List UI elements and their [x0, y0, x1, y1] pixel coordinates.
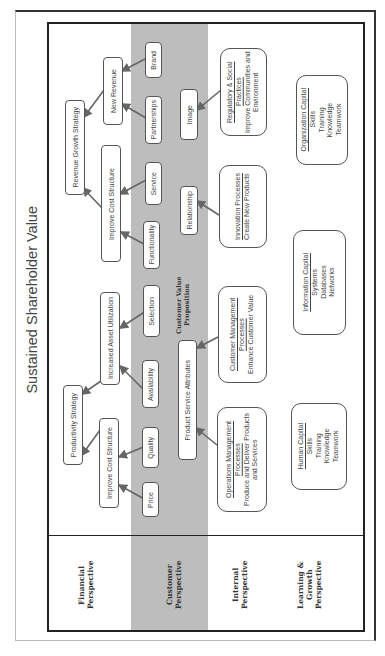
improve-cost-structure-bottom-box: Improve Cost Structure	[99, 418, 119, 508]
human-capital-item: Skills	[306, 423, 315, 469]
perspective-learning-growth: Learning & Growth Perspective	[292, 545, 332, 625]
attribute-selection-label: Selection	[148, 297, 155, 326]
perspective-learning-growth-label: Learning & Growth Perspective	[296, 545, 328, 625]
revenue-growth-strategy-label: Revenue Growth Strategy	[72, 107, 79, 188]
attribute-brand: Brand	[145, 42, 162, 78]
customer-value-proposition: Customer Value Proposition	[168, 265, 200, 345]
attribute-functionality-label: Functionality	[148, 225, 155, 264]
organization-capital-item: Skills	[309, 88, 318, 151]
attribute-quality: Quality	[142, 427, 159, 468]
customer-management-processes-text: Customer Management Processes Enhance Cu…	[229, 287, 255, 382]
improve-cost-structure-top-label: Improve Cost Structure	[108, 168, 115, 240]
customer-management-processes-box: Customer Management Processes Enhance Cu…	[218, 286, 267, 383]
perspective-customer-label: Customer Perspective	[165, 545, 187, 625]
perspective-customer: Customer Perspective	[156, 545, 196, 625]
attribute-price-label: Price	[147, 492, 154, 508]
perspective-financial: Financial Perspective	[68, 545, 108, 625]
operations-management-processes-box: Operations Management Processes Produce …	[217, 407, 267, 512]
customer-management-desc: Enhance Customer Value	[247, 295, 254, 374]
operations-title: Operations Management Processes	[225, 408, 243, 511]
productivity-strategy-label: Productivity Strategy	[70, 393, 77, 457]
attribute-availability-label: Availability	[147, 368, 154, 401]
regulatory-desc: Improve Communities and Environment	[244, 51, 260, 133]
human-capital-text: Human Capital Skills Training Knowledge …	[297, 423, 341, 469]
attribute-service: Service	[145, 162, 162, 205]
attribute-availability: Availability	[142, 360, 159, 408]
human-capital-item: Teamwork	[332, 423, 341, 469]
diagram-title: Sustained Shareholder Value	[14, 210, 50, 390]
attribute-partnerships-label: Partnerships	[150, 100, 157, 139]
human-capital-item: Training	[315, 423, 324, 469]
attribute-service-label: Service	[150, 172, 157, 195]
attribute-quality-label: Quality	[147, 437, 154, 459]
innovation-title: Innovation Processes	[234, 173, 243, 240]
group-product-service-attributes-label: Product Service Attributes	[184, 360, 191, 441]
regulatory-title: Regulatory & Social Practices	[226, 49, 244, 135]
customer-value-proposition-label: Customer Value Proposition	[176, 265, 192, 345]
organization-capital-item: Teamwork	[335, 88, 344, 151]
information-capital-text: Information Capital Systems Databases Ne…	[302, 253, 337, 312]
perspective-financial-label: Financial Perspective	[77, 545, 99, 625]
operations-desc: Produce and Deliver Products and Service…	[242, 413, 258, 506]
attribute-selection: Selection	[143, 285, 160, 337]
information-capital-item: Databases	[320, 253, 329, 312]
information-capital-title: Information Capital	[302, 253, 311, 312]
revenue-growth-strategy-box: Revenue Growth Strategy	[65, 100, 85, 195]
attribute-partnerships: Partnerships	[145, 96, 162, 144]
attribute-functionality: Functionality	[143, 221, 160, 269]
regulatory-social-practices-text: Regulatory & Social Practices Improve Co…	[226, 49, 261, 135]
organization-capital-title: Organization Capital	[300, 88, 309, 151]
information-capital-item: Systems	[311, 253, 320, 312]
new-revenue-box: New Revenue	[103, 57, 123, 125]
group-image-label: Image	[186, 105, 193, 124]
attribute-brand-label: Brand	[150, 51, 157, 70]
human-capital-title: Human Capital	[297, 423, 306, 469]
human-capital-box: Human Capital Skills Training Knowledge …	[291, 403, 347, 490]
organization-capital-item: Knowledge	[326, 88, 335, 151]
group-relationship: Relationship	[180, 186, 198, 235]
productivity-strategy-box: Productivity Strategy	[63, 385, 83, 465]
perspective-internal-label: Internal Perspective	[231, 545, 253, 625]
organization-capital-box: Organization Capital Skills Training Kno…	[296, 75, 348, 165]
improve-cost-structure-top-box: Improve Cost Structure	[101, 145, 121, 262]
perspective-internal: Internal Perspective	[222, 545, 262, 625]
operations-management-processes-text: Operations Management Processes Produce …	[225, 408, 260, 511]
new-revenue-label: New Revenue	[110, 69, 117, 113]
innovation-desc: Create New Products	[243, 173, 250, 240]
information-capital-box: Information Capital Systems Databases Ne…	[293, 230, 346, 335]
human-capital-item: Knowledge	[323, 423, 332, 469]
perspective-label-divider	[48, 535, 364, 536]
group-relationship-label: Relationship	[186, 191, 193, 230]
regulatory-social-practices-box: Regulatory & Social Practices Improve Co…	[220, 48, 267, 136]
diagram-title-text: Sustained Shareholder Value	[24, 206, 40, 394]
group-product-service-attributes: Product Service Attributes	[178, 340, 197, 460]
organization-capital-item: Training	[318, 88, 327, 151]
improve-cost-structure-bottom-label: Improve Cost Structure	[106, 427, 113, 499]
increased-asset-utilization-box: Increased Asset Utilization	[100, 292, 120, 385]
innovation-processes-box: Innovation Processes Create New Products	[219, 165, 267, 248]
innovation-processes-text: Innovation Processes Create New Products	[234, 173, 252, 240]
group-image: Image	[180, 89, 198, 140]
increased-asset-utilization-label: Increased Asset Utilization	[107, 297, 114, 379]
attribute-price: Price	[142, 482, 159, 517]
customer-management-title: Customer Management Processes	[229, 287, 247, 382]
information-capital-item: Networks	[328, 253, 337, 312]
organization-capital-text: Organization Capital Skills Training Kno…	[300, 88, 344, 151]
